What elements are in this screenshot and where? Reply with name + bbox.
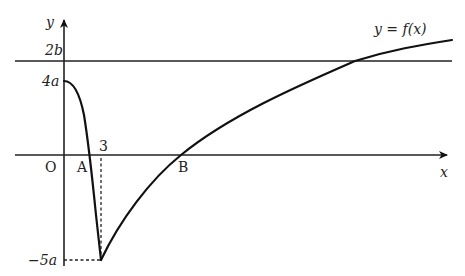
y-tick-4a-label: 4a <box>41 73 59 89</box>
x-axis-label: x <box>440 164 448 180</box>
origin-label: O <box>45 159 56 175</box>
point-b-label: B <box>178 159 188 175</box>
point-a-label: A <box>76 159 88 175</box>
y-tick-neg5a-label: −5a <box>28 252 57 268</box>
function-graph: y x O A B 3 2b 4a −5a y = f(x) <box>0 0 465 276</box>
curve-label: y = f(x) <box>373 21 427 37</box>
y-tick-2b-label: 2b <box>44 42 63 58</box>
curve-right-branch <box>101 40 452 260</box>
x-tick-3-label: 3 <box>99 138 108 154</box>
y-axis-label: y <box>45 14 55 30</box>
